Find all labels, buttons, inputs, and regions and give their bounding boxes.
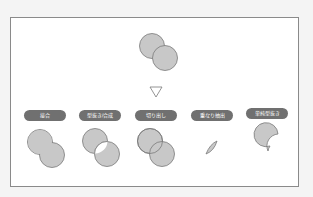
union-result-icon [0,0,65,168]
intersect-result-icon [206,141,217,154]
combine-result-icon [83,129,120,167]
source-circles-icon [140,34,178,71]
operation-label-union: 接合 [24,110,66,121]
down-arrow-icon [150,87,162,97]
operation-label-fragment: 切り出し [135,110,177,121]
fragment-result-icon [138,129,175,167]
operation-label-combine: 型抜き/合成 [79,110,121,121]
operation-label-subtract: 単純型抜き [246,108,288,119]
subtract-result-icon [254,123,278,151]
diagram-canvas [0,0,313,197]
operation-label-intersect: 重なり抽出 [191,110,233,121]
